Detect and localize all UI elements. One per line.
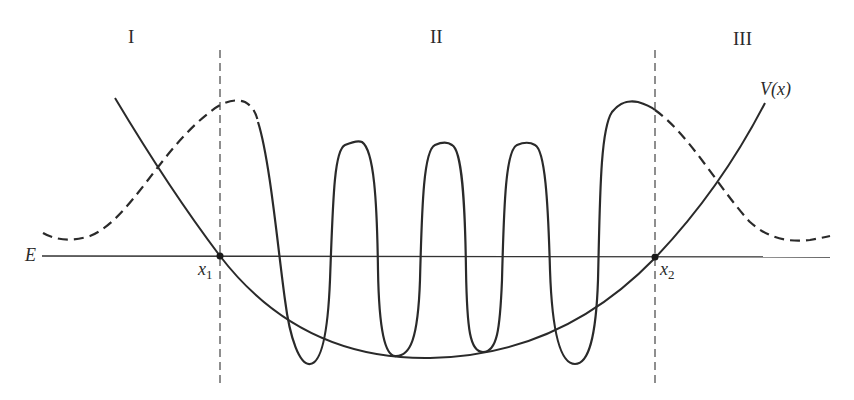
wavefunction-region-III-dashed (655, 110, 830, 241)
turning-point-x2-subscript: 2 (668, 267, 675, 282)
region-label-III: III (733, 29, 752, 48)
turning-point-x1-label: x1 (198, 260, 213, 281)
energy-label: E (25, 246, 36, 264)
region-label-I: I (128, 27, 134, 46)
diagram-svg (0, 0, 854, 400)
turning-point-x2-var: x (660, 259, 668, 279)
energy-line (42, 256, 830, 257)
potential-label: V(x) (760, 80, 791, 98)
diagram-canvas: I II III V(x) E x1 x2 (0, 0, 854, 400)
wavefunction-region-II-solid (258, 101, 655, 364)
turning-point-x1-var: x (198, 259, 206, 279)
turning-point-x1-subscript: 1 (206, 267, 213, 282)
region-label-II: II (430, 27, 443, 46)
potential-curve (115, 98, 765, 358)
turning-point-x2-dot (652, 254, 659, 261)
turning-point-x1-dot (217, 253, 224, 260)
wavefunction-region-I-dashed (43, 100, 258, 239)
turning-point-x2-label: x2 (660, 260, 675, 281)
